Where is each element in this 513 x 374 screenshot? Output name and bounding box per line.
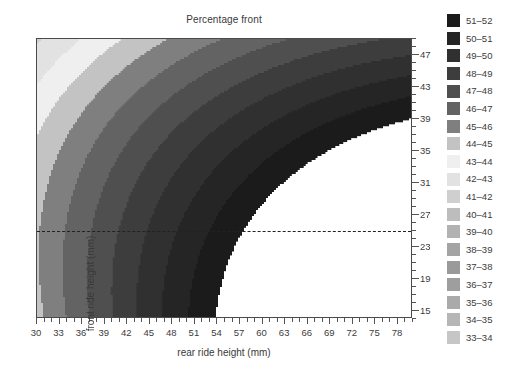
x-tick-label: 42 [121,327,132,338]
y-tick-minor [412,230,416,231]
y-tick-major [412,310,419,311]
x-tick-minor [141,318,142,322]
y-tick-minor [412,94,416,95]
y-tick-minor [412,302,416,303]
legend-label: 45–46 [466,122,492,132]
legend-item: 40–41 [447,206,511,224]
legend-label: 41–42 [466,192,492,202]
y-tick-minor [412,270,416,271]
x-tick-label: 39 [98,327,109,338]
legend-item: 35–36 [447,294,511,312]
x-tick-minor [382,318,383,322]
legend-item: 48–49 [447,65,511,83]
x-tick-major [149,318,150,324]
y-axis-tick-labels: 151923273135394347 [420,38,446,318]
x-tick-minor [247,318,248,322]
y-tick-label: 47 [420,49,431,60]
legend-swatch [447,296,460,309]
x-tick-minor [119,318,120,322]
x-tick-minor [44,318,45,322]
legend-label: 36–37 [466,280,492,290]
legend-swatch [447,331,460,344]
y-tick-minor [412,174,416,175]
legend-item: 44–45 [447,135,511,153]
legend-label: 51–52 [466,16,492,26]
x-tick-major [81,318,82,324]
legend-label: 38–39 [466,245,492,255]
legend-item: 38–39 [447,241,511,259]
x-tick-label: 54 [211,327,222,338]
x-tick-minor [359,318,360,322]
x-tick-major [194,318,195,324]
x-tick-minor [367,318,368,322]
x-tick-minor [186,318,187,322]
x-tick-label: 60 [256,327,267,338]
y-tick-label: 35 [420,145,431,156]
legend-swatch [447,261,460,274]
x-tick-minor [74,318,75,322]
chart-title: Percentage front [36,14,412,25]
x-tick-label: 69 [324,327,335,338]
x-tick-label: 33 [53,327,64,338]
x-tick-label: 78 [392,327,403,338]
y-tick-minor [412,198,416,199]
x-tick-label: 63 [279,327,290,338]
legend-label: 40–41 [466,210,492,220]
y-tick-minor [412,78,416,79]
y-tick-major [412,118,419,119]
y-tick-minor [412,238,416,239]
x-tick-major [126,318,127,324]
y-tick-minor [412,110,416,111]
legend-swatch [447,120,460,133]
legend-label: 39–40 [466,227,492,237]
y-tick-label: 27 [420,209,431,220]
y-tick-minor [412,142,416,143]
x-tick-minor [51,318,52,322]
legend-item: 46–47 [447,100,511,118]
x-tick-minor [179,318,180,322]
legend-item: 50–51 [447,30,511,48]
x-tick-label: 57 [234,327,245,338]
x-tick-major [104,318,105,324]
x-tick-minor [224,318,225,322]
legend-swatch [447,190,460,203]
legend-swatch [447,243,460,256]
legend-swatch [447,155,460,168]
y-tick-minor [412,38,416,39]
y-tick-major [412,182,419,183]
x-tick-major [262,318,263,324]
legend-swatch [447,313,460,326]
y-tick-label: 19 [420,273,431,284]
x-axis-tick-labels: 3033363942454851545760636669727578 [0,327,440,341]
y-tick-minor [412,134,416,135]
x-tick-major [352,318,353,324]
x-tick-minor [337,318,338,322]
legend-swatch [447,67,460,80]
y-tick-major [412,278,419,279]
x-tick-minor [111,318,112,322]
x-tick-major [307,318,308,324]
y-tick-label: 31 [420,177,431,188]
y-tick-minor [412,70,416,71]
legend-label: 50–51 [466,34,492,44]
legend: 51–5250–5149–5048–4947–4846–4745–4644–45… [447,12,511,346]
legend-item: 43–44 [447,153,511,171]
legend-item: 39–40 [447,223,511,241]
x-tick-minor [404,318,405,322]
y-tick-major [412,54,419,55]
legend-label: 33–34 [466,333,492,343]
x-tick-minor [314,318,315,322]
legend-swatch [447,137,460,150]
x-tick-minor [254,318,255,322]
y-axis-title: front ride height (mm) [85,204,96,364]
x-tick-major [59,318,60,324]
y-tick-minor [412,318,416,319]
legend-swatch [447,49,460,62]
x-tick-label: 72 [347,327,358,338]
y-axis-ticks [412,38,420,318]
x-tick-major [239,318,240,324]
y-tick-major [412,86,419,87]
y-tick-major [412,214,419,215]
y-tick-major [412,246,419,247]
y-tick-minor [412,286,416,287]
